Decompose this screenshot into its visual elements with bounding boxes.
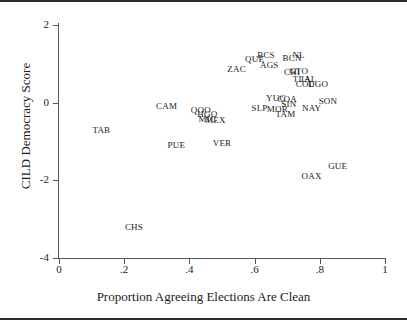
data-point-label: SON	[319, 97, 338, 106]
y-axis-label: CILD Democracy Score	[18, 6, 34, 246]
x-axis-label: Proportion Agreeing Elections Are Clean	[0, 289, 407, 305]
data-point-label: OAX	[302, 171, 322, 180]
y-tick-mark	[53, 103, 58, 104]
data-point-label: SIN	[281, 100, 296, 109]
figure-bottom-rule	[0, 318, 407, 320]
y-tick-label: -4	[27, 252, 49, 263]
data-point-label: GUE	[328, 161, 347, 170]
x-tick-label: .2	[112, 264, 136, 275]
data-point-label: PUE	[168, 141, 186, 150]
y-tick-mark	[53, 180, 58, 181]
plot-area: TABCHSCAMPUEQOOHGOMICMEXVERZACQUEBCSAGSS…	[59, 25, 385, 258]
data-point-label: CHS	[125, 222, 143, 231]
x-tick-label: .6	[243, 264, 267, 275]
y-tick-mark	[53, 258, 58, 259]
x-tick-label: .8	[308, 264, 332, 275]
x-tick-label: 1	[373, 264, 397, 275]
figure-top-rule	[0, 0, 407, 2]
data-point-label: TAB	[92, 125, 110, 134]
data-point-label: DGO	[308, 80, 328, 89]
y-tick-mark	[53, 25, 58, 26]
data-point-label: SLP	[251, 104, 267, 113]
data-point-label: CAM	[156, 101, 177, 110]
data-point-label: TAM	[276, 110, 296, 119]
data-point-label: ZAC	[227, 65, 246, 74]
x-axis-line	[58, 258, 386, 259]
x-tick-label: 0	[47, 264, 71, 275]
data-point-label: AGS	[260, 60, 279, 69]
scatter-plot-figure: 20-2-4 0.2.4.6.81 CILD Democracy Score P…	[0, 0, 407, 326]
x-tick-label: .4	[177, 264, 201, 275]
data-point-label: MEX	[205, 115, 226, 124]
data-point-label: VER	[213, 139, 232, 148]
data-point-label: NL	[292, 50, 304, 59]
